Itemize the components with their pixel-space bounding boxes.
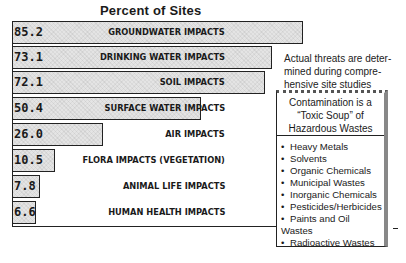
list-item: Organic Chemicals	[281, 165, 384, 177]
bar-value: 72.1	[14, 75, 43, 89]
chart-title: Percent of Sites	[100, 3, 201, 18]
bar-label: AIR IMPACTS	[166, 129, 225, 139]
bar-label: ANIMAL LIFE IMPACTS	[122, 181, 225, 191]
dash-mark	[393, 228, 398, 229]
annotation-note: Actual threats are deter- mined during c…	[284, 52, 404, 91]
bar-value: 50.4	[14, 101, 43, 115]
list-item: Paints and Oil Wastes	[281, 213, 384, 237]
bar-value: 10.5	[14, 153, 43, 167]
box-heading-line: “Toxic Soup” of	[279, 109, 382, 122]
waste-list: Heavy Metals Solvents Organic Chemicals …	[277, 136, 384, 249]
note-line: mined during compre-	[284, 65, 404, 78]
list-item: Municipal Wastes	[281, 177, 384, 189]
contamination-box: Contamination is a “Toxic Soup” of Hazar…	[276, 90, 388, 247]
bar-value: 7.8	[14, 179, 36, 193]
box-heading: Contamination is a “Toxic Soup” of Hazar…	[277, 93, 384, 136]
note-line: Actual threats are deter-	[284, 52, 404, 65]
bar-value: 26.0	[14, 127, 43, 141]
bar-label: SURFACE WATER IMPACTS	[104, 103, 225, 113]
bar-label: HUMAN HEALTH IMPACTS	[108, 207, 225, 217]
bar-label: GROUNDWATER IMPACTS	[108, 27, 225, 37]
bar-value: 73.1	[14, 50, 43, 64]
list-item: Heavy Metals	[281, 141, 384, 153]
bar-label: FLORA IMPACTS (VEGETATION)	[82, 155, 225, 165]
bar-row: 85.2 GROUNDWATER IMPACTS	[12, 21, 332, 46]
bar	[12, 71, 265, 94]
list-item: Solvents	[281, 153, 384, 165]
y-axis-line	[12, 21, 13, 227]
bar-label: SOIL IMPACTS	[160, 77, 225, 87]
list-item: Radioactive Wastes	[281, 237, 384, 249]
list-item: Pesticides/Herbicides	[281, 201, 384, 213]
bar-label: DRINKING WATER IMPACTS	[100, 52, 225, 62]
box-heading-line: Hazardous Wastes	[279, 122, 382, 135]
list-item: Inorganic Chemicals	[281, 189, 384, 201]
bar-value: 85.2	[14, 25, 43, 39]
bar-value: 6.6	[14, 205, 36, 219]
box-heading-line: Contamination is a	[279, 96, 382, 109]
